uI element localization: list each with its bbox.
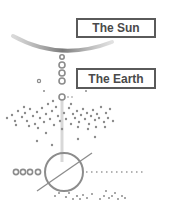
sun-arc-icon <box>13 36 112 51</box>
chain-circles <box>59 55 65 100</box>
sun-label: The Sun <box>76 18 156 38</box>
earth-label: The Earth <box>76 68 156 89</box>
left-circles <box>13 169 40 174</box>
particle-cloud <box>6 100 114 146</box>
